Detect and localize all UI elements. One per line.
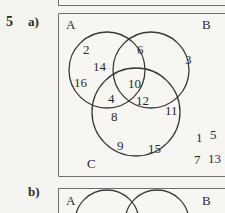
set-label-B-b: B	[202, 194, 211, 207]
circle-B	[125, 190, 189, 213]
worksheet-page: 5 a) A B C 2 14 16 6 3 10 4 12 8 11 9 15…	[0, 0, 225, 213]
venn-diagram-b	[0, 0, 225, 213]
set-label-A-b: A	[66, 194, 75, 207]
circle-A	[75, 190, 139, 213]
